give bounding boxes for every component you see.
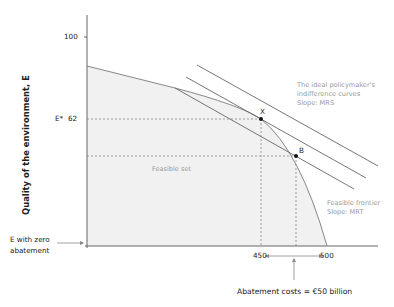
point-b	[294, 154, 298, 158]
indifference-label-2: indifference curves	[297, 90, 360, 98]
abatement-cost-label: Abatement costs = €50 billion	[237, 287, 352, 296]
x-tick-500: 500	[320, 251, 334, 260]
point-b-label: B	[299, 146, 304, 155]
y-tick-100: 100	[64, 32, 78, 41]
zero-abatement-label-2: abatement	[10, 246, 49, 255]
indifference-label-1: The ideal policymaker's	[297, 81, 375, 89]
y-tick-estar: E*	[55, 114, 63, 123]
zero-abatement-label-1: E with zero	[10, 235, 50, 244]
indifference-slope-label: Slope: MRS	[297, 99, 334, 107]
feasible-set-label: Feasible set	[152, 165, 191, 173]
x-tick-450: 450	[253, 251, 267, 260]
y-tick-62: 62	[68, 114, 77, 123]
frontier-slope-label: Slope: MRT	[327, 208, 363, 216]
y-axis-label: Quality of the environment, E	[21, 75, 31, 215]
point-x	[259, 117, 263, 121]
chart-canvas	[0, 0, 394, 307]
feasible-frontier-label: Feasible frontier	[327, 199, 380, 207]
point-x-label: X	[260, 107, 265, 116]
